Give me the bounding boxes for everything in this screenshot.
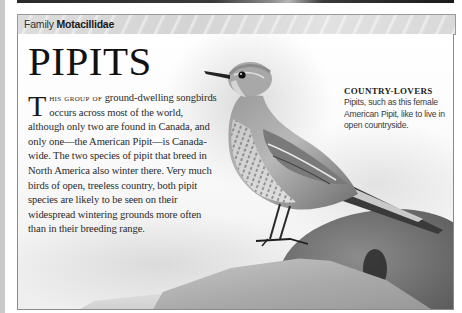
family-prefix: Family <box>24 18 54 30</box>
family-label: Family Motacillidae <box>24 18 114 30</box>
caption-title: COUNTRY-LOVERS <box>344 86 454 97</box>
previous-photo-strip <box>17 0 454 3</box>
drop-cap: T <box>28 94 46 118</box>
family-header-bar: Family Motacillidae <box>17 14 456 35</box>
lead-in-smallcaps: his group of <box>49 92 102 103</box>
page-title: PIPITS <box>28 41 152 82</box>
family-name: Motacillidae <box>56 18 114 30</box>
article-body: This group of ground-dwelling songbirds … <box>28 91 218 237</box>
body-text: ground-dwelling songbirds occurs across … <box>28 92 217 234</box>
caption-text: Pipits, such as this female American Pip… <box>344 97 454 132</box>
photo-caption: COUNTRY-LOVERS Pipits, such as this fema… <box>344 86 454 132</box>
article-panel: PIPITS This group of ground-dwelling son… <box>17 34 454 310</box>
page-edge-strip <box>0 0 5 313</box>
